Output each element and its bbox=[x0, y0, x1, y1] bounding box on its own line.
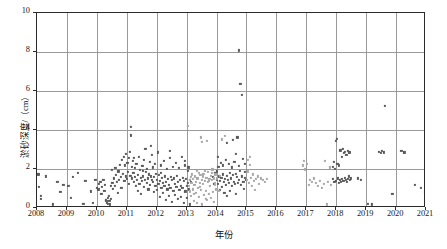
data-point bbox=[189, 203, 191, 205]
data-point bbox=[205, 190, 207, 192]
data-point bbox=[313, 177, 315, 179]
data-point bbox=[162, 192, 164, 194]
data-point bbox=[166, 168, 168, 170]
x-tick-mark bbox=[66, 207, 67, 210]
data-point bbox=[130, 134, 132, 136]
data-point bbox=[367, 203, 369, 205]
data-point bbox=[51, 203, 53, 205]
x-tick-label: 2016 bbox=[267, 209, 283, 218]
data-point bbox=[221, 173, 223, 175]
data-point bbox=[186, 197, 188, 199]
data-point bbox=[156, 179, 158, 181]
data-point bbox=[110, 198, 112, 200]
x-tick-label: 2015 bbox=[237, 209, 253, 218]
data-point bbox=[164, 175, 166, 177]
data-point bbox=[142, 175, 144, 177]
data-point bbox=[239, 82, 241, 84]
x-tick-label: 2020 bbox=[387, 209, 403, 218]
x-tick-label: 2021 bbox=[417, 209, 433, 218]
data-point bbox=[214, 173, 216, 175]
data-point bbox=[330, 184, 332, 186]
x-tick-mark bbox=[36, 207, 37, 210]
data-point bbox=[209, 185, 211, 187]
data-point bbox=[133, 181, 135, 183]
data-point bbox=[326, 203, 328, 205]
data-point bbox=[132, 160, 134, 162]
data-point bbox=[38, 186, 40, 188]
data-point bbox=[94, 179, 96, 181]
data-point bbox=[226, 195, 228, 197]
data-point bbox=[67, 185, 69, 187]
data-point bbox=[189, 190, 191, 192]
data-point bbox=[187, 169, 189, 171]
data-point bbox=[241, 94, 243, 96]
data-point bbox=[183, 202, 185, 204]
data-point bbox=[184, 190, 186, 192]
data-point bbox=[203, 194, 205, 196]
data-point bbox=[198, 196, 200, 198]
data-point bbox=[336, 138, 338, 140]
x-tick-mark bbox=[395, 207, 396, 210]
data-point bbox=[138, 183, 140, 185]
x-tick-label: 2010 bbox=[88, 209, 104, 218]
data-point bbox=[169, 150, 171, 152]
data-point bbox=[400, 150, 402, 152]
data-point bbox=[253, 180, 255, 182]
data-point bbox=[230, 166, 232, 168]
data-point bbox=[114, 167, 116, 169]
data-point bbox=[37, 173, 39, 175]
data-point bbox=[100, 193, 102, 195]
data-point bbox=[163, 185, 165, 187]
data-point bbox=[303, 160, 305, 162]
y-tick-mark bbox=[33, 90, 36, 91]
y-tick-mark bbox=[33, 12, 36, 13]
data-point bbox=[133, 157, 135, 159]
data-point bbox=[244, 171, 246, 173]
data-point bbox=[200, 179, 202, 181]
data-point bbox=[229, 171, 231, 173]
x-tick-mark bbox=[335, 207, 336, 210]
data-point bbox=[157, 151, 159, 153]
data-point bbox=[302, 164, 304, 166]
data-point bbox=[180, 196, 182, 198]
data-point bbox=[192, 188, 194, 190]
y-tick-mark bbox=[33, 168, 36, 169]
data-point bbox=[179, 179, 181, 181]
data-point bbox=[115, 174, 117, 176]
data-point bbox=[128, 183, 130, 185]
data-point bbox=[335, 180, 337, 182]
data-point bbox=[129, 151, 131, 153]
data-point bbox=[192, 178, 194, 180]
data-point bbox=[235, 173, 237, 175]
data-point bbox=[250, 177, 252, 179]
data-point bbox=[141, 180, 143, 182]
data-point bbox=[187, 166, 189, 168]
data-point bbox=[247, 170, 249, 172]
data-point bbox=[231, 184, 233, 186]
data-point bbox=[350, 177, 352, 179]
data-point bbox=[217, 190, 219, 192]
data-point bbox=[346, 181, 348, 183]
data-point bbox=[181, 187, 183, 189]
x-tick-mark bbox=[186, 207, 187, 210]
data-point bbox=[342, 147, 344, 149]
data-point bbox=[242, 181, 244, 183]
data-point bbox=[207, 171, 209, 173]
data-point bbox=[333, 160, 335, 162]
data-point bbox=[190, 182, 192, 184]
data-point bbox=[144, 179, 146, 181]
data-point bbox=[217, 156, 219, 158]
data-point bbox=[266, 178, 268, 180]
data-point bbox=[224, 135, 226, 137]
data-point bbox=[414, 184, 416, 186]
data-point bbox=[323, 183, 325, 185]
data-point bbox=[173, 177, 175, 179]
data-point bbox=[193, 193, 195, 195]
data-point bbox=[40, 198, 42, 200]
data-point bbox=[217, 166, 219, 168]
x-tick-mark bbox=[425, 207, 426, 210]
x-tick-mark bbox=[275, 207, 276, 210]
data-point bbox=[384, 105, 386, 107]
data-point bbox=[212, 191, 214, 193]
data-point bbox=[227, 163, 229, 165]
